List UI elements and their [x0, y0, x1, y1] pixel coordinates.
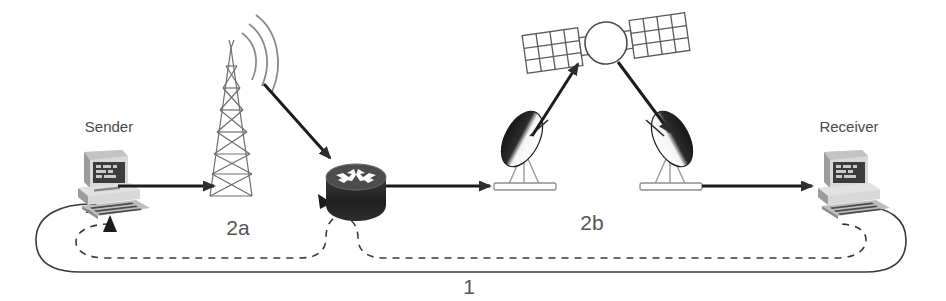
path-1-line [36, 204, 906, 272]
sender-node[interactable]: Sender [78, 118, 150, 219]
path-1-label: 1 [463, 275, 475, 298]
radio-wave-icon [242, 15, 278, 92]
link-tower-to-router [264, 84, 330, 158]
router-icon [326, 164, 386, 221]
network-diagram: Sender [0, 0, 946, 301]
satellite-dish-icon [640, 105, 702, 190]
forward-links [118, 62, 812, 186]
return-path-2 [76, 194, 866, 258]
satellite-icon [522, 11, 690, 75]
return-path-1 [36, 196, 906, 272]
dish-right-node[interactable] [640, 105, 702, 190]
path-2a-line [76, 214, 342, 258]
router-node[interactable] [326, 164, 386, 221]
tower-node[interactable] [210, 15, 278, 196]
desktop-computer-icon [818, 150, 890, 219]
diagram-canvas: Sender [0, 0, 946, 301]
satellite-node[interactable] [522, 11, 690, 75]
path-2a-label: 2a [226, 216, 250, 239]
satellite-dish-icon [493, 105, 556, 190]
receiver-node[interactable]: Receiver [818, 118, 890, 219]
path-2b-label: 2b [580, 211, 603, 234]
link-dish-left-to-satellite [532, 64, 578, 136]
radio-tower-icon [210, 40, 252, 196]
receiver-label: Receiver [819, 118, 878, 135]
sender-label: Sender [85, 118, 133, 135]
link-satellite-to-dish-right [618, 62, 670, 132]
dish-left-node[interactable] [493, 105, 556, 190]
